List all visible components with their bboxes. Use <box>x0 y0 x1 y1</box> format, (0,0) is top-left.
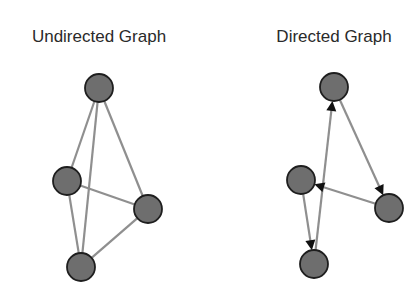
undirected-nodes <box>53 74 162 281</box>
directed-nodes <box>287 73 403 278</box>
graph-node-right <box>375 194 403 222</box>
undirected-edge-line <box>104 101 142 196</box>
graph-node-right <box>134 195 162 223</box>
graph-node-left <box>287 166 315 194</box>
edge-right-left <box>314 183 375 204</box>
undirected-graph-title: Undirected Graph <box>32 27 166 46</box>
directed-graph-title: Directed Graph <box>276 27 391 46</box>
arrowhead-icon <box>305 240 315 251</box>
directed-edge-line <box>323 187 376 204</box>
graph-diagram-canvas: Undirected Graph Directed Graph <box>0 0 419 299</box>
directed-edge-line <box>303 194 310 241</box>
directed-edge-line <box>316 110 332 250</box>
directed-edges <box>303 100 383 250</box>
edge-left-bottom <box>303 194 315 250</box>
edge-right-bottom <box>92 218 138 258</box>
graph-node-bottom <box>67 253 95 281</box>
undirected-edge-line <box>92 218 138 258</box>
directed-edge-line <box>340 100 380 187</box>
arrowhead-icon <box>314 183 325 193</box>
undirected-edge-line <box>69 195 79 253</box>
graph-node-bottom <box>300 250 328 278</box>
graph-node-top <box>85 74 113 102</box>
undirected-edge-line <box>82 102 97 253</box>
arrowhead-icon <box>326 101 336 111</box>
graph-node-left <box>53 167 81 195</box>
edge-top-right <box>104 101 142 196</box>
edge-bottom-top <box>316 101 337 250</box>
undirected-graph: Undirected Graph <box>32 27 166 281</box>
edge-top-bottom <box>82 102 97 253</box>
directed-graph: Directed Graph <box>276 27 403 278</box>
graph-node-top <box>320 73 348 101</box>
edge-top-right <box>340 100 384 196</box>
edge-left-bottom <box>69 195 79 253</box>
